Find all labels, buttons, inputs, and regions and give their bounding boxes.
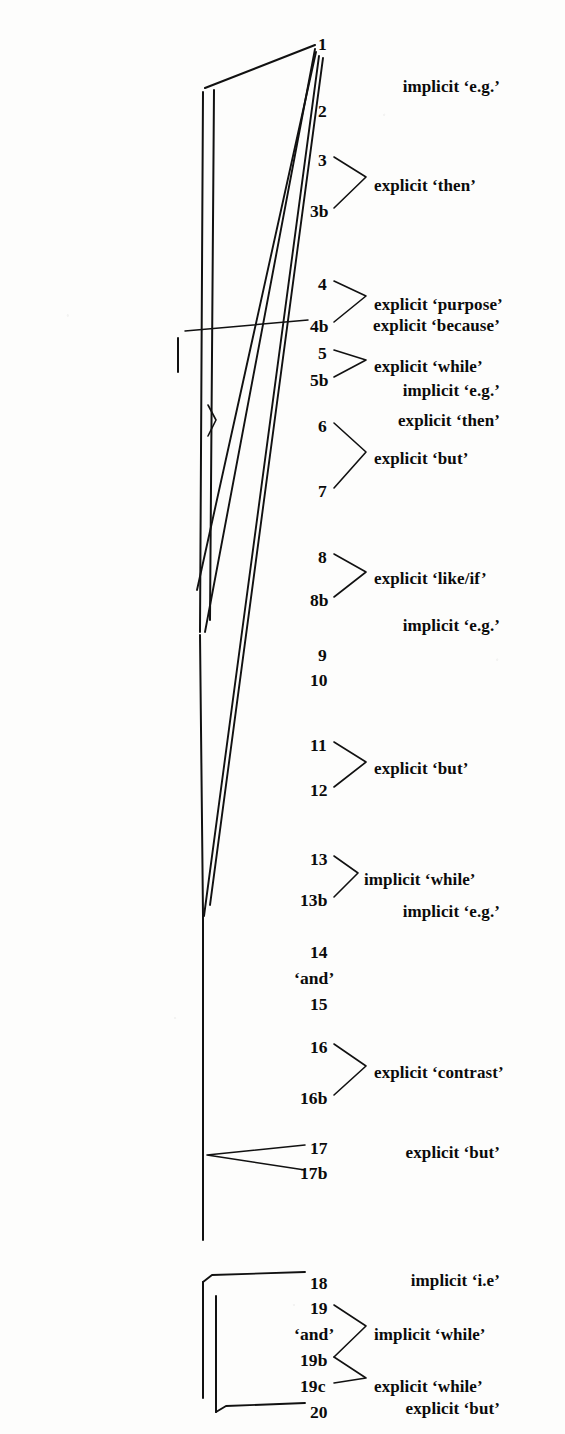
diag-1-to-585 xyxy=(197,52,316,590)
unit-number-u11: 11 xyxy=(310,737,327,755)
relation-label-right-r2: explicit ‘purpose’ xyxy=(374,296,503,313)
bracket-19b-19c xyxy=(334,1357,366,1383)
bracket-8-8b xyxy=(334,554,366,597)
relation-label-left-l9: explicit ‘but’ xyxy=(406,1400,500,1417)
unit-number-u14: 14 xyxy=(310,944,328,962)
relation-label-left-l3: implicit ‘e.g.’ xyxy=(403,382,500,399)
unit-number-u3b: 3b xyxy=(310,203,329,221)
unit-number-u3: 3 xyxy=(318,152,327,170)
unit-number-u4b: 4b xyxy=(310,318,329,336)
rule-main-mid xyxy=(200,635,203,915)
unit-number-u5: 5 xyxy=(318,345,327,363)
scan-noise-overlay xyxy=(0,0,565,1434)
unit-number-u1: 1 xyxy=(318,36,327,54)
unit-number-u9: 9 xyxy=(318,647,327,665)
top-frame-eg xyxy=(205,45,315,88)
leader-because xyxy=(185,320,308,331)
unit-number-uand1: ‘and’ xyxy=(294,970,334,988)
relation-label-right-r4: explicit ‘but’ xyxy=(374,450,468,467)
unit-number-u20: 20 xyxy=(310,1404,328,1422)
bracket-6-7 xyxy=(334,423,366,488)
relation-label-left-l5: implicit ‘e.g.’ xyxy=(403,617,500,634)
bracket-19-19b xyxy=(334,1305,366,1357)
unit-number-u6: 6 xyxy=(318,418,327,436)
relation-label-right-r6: explicit ‘but’ xyxy=(374,760,468,777)
unit-number-uand2: ‘and’ xyxy=(294,1326,334,1344)
unit-number-u18: 18 xyxy=(310,1275,328,1293)
unit-number-u2: 2 xyxy=(318,103,327,121)
unit-number-u17b: 17b xyxy=(300,1165,328,1183)
relation-label-left-l2: explicit ‘because’ xyxy=(373,317,500,334)
unit-number-u13b: 13b xyxy=(300,892,328,910)
discourse-relations-figure: 1233b44b55b6788b91011121313b14‘and’15161… xyxy=(0,0,565,1434)
bracket-11-12 xyxy=(334,742,366,787)
brace-then xyxy=(208,405,216,436)
bracket-13-13b xyxy=(334,856,358,897)
bracket-16-16b xyxy=(334,1044,366,1095)
unit-number-u17: 17 xyxy=(310,1140,328,1158)
bracket-3-3b xyxy=(334,157,366,208)
relation-label-left-l8: implicit ‘i.e’ xyxy=(411,1272,500,1289)
unit-number-u19: 19 xyxy=(310,1300,328,1318)
unit-number-u10: 10 xyxy=(310,672,328,690)
unit-number-u19b: 19b xyxy=(300,1352,328,1370)
relation-label-right-r10: explicit ‘while’ xyxy=(374,1378,483,1395)
relation-label-right-r7: implicit ‘while’ xyxy=(364,871,476,888)
relation-label-right-r5: explicit ‘like/if’ xyxy=(374,570,487,587)
unit-number-u4: 4 xyxy=(318,276,327,294)
unit-number-u15: 15 xyxy=(310,996,328,1014)
diag-1-to-915 xyxy=(204,56,319,916)
relation-label-right-r3: explicit ‘while’ xyxy=(374,358,483,375)
unit-number-u8: 8 xyxy=(318,549,327,567)
unit-number-u5b: 5b xyxy=(310,372,329,390)
connector-18 xyxy=(203,1272,305,1282)
unit-number-u7: 7 xyxy=(318,483,327,501)
bracket-4-4b xyxy=(334,281,366,322)
relation-label-left-l7: explicit ‘but’ xyxy=(406,1144,500,1161)
unit-number-u12: 12 xyxy=(310,782,328,800)
diag-1-to-905 xyxy=(210,58,323,905)
connector-20 xyxy=(216,1403,305,1412)
relation-label-left-l4: explicit ‘then’ xyxy=(398,412,500,429)
unit-number-u13: 13 xyxy=(310,851,328,869)
relation-label-right-r9: implicit ‘while’ xyxy=(374,1326,486,1343)
diag-1-to-630 xyxy=(205,49,315,632)
rule-outer-top xyxy=(200,92,203,632)
unit-number-u16b: 16b xyxy=(300,1090,328,1108)
unit-number-u16: 16 xyxy=(310,1039,328,1057)
relation-label-left-l1: implicit ‘e.g.’ xyxy=(403,78,500,95)
unit-number-u19c: 19c xyxy=(300,1378,326,1396)
diagram-strokes xyxy=(0,0,565,1434)
relation-label-left-l6: implicit ‘e.g.’ xyxy=(403,903,500,920)
unit-number-u8b: 8b xyxy=(310,592,329,610)
bracket-5-5b xyxy=(334,350,366,377)
relation-label-right-r1: explicit ‘then’ xyxy=(374,177,476,194)
relation-label-right-r8: explicit ‘contrast’ xyxy=(374,1064,504,1081)
rule-inner-top xyxy=(210,90,214,620)
bracket-17-17b xyxy=(207,1145,305,1170)
